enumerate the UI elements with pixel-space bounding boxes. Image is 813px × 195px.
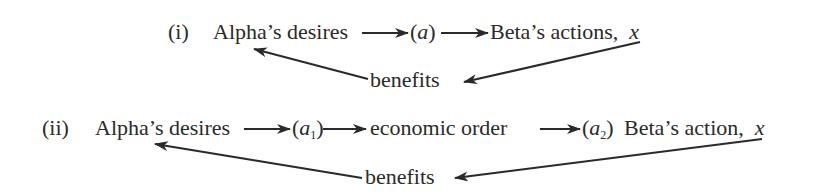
row2-source-alpha-desires: Alpha’s desires [95,116,230,140]
arrow-benefits-to-desires-2 [155,144,362,178]
causal-diagram: (i) Alpha’s desires (a) Beta’s actions, … [0,0,813,195]
arrow-benefits-to-desires [254,49,368,79]
arrow-x-to-benefits [464,42,640,82]
paren-close: ) [606,115,613,140]
var-x: x [755,115,765,140]
row1-source-alpha-desires: Alpha’s desires [213,20,348,44]
row2-feedback-benefits: benefits [365,165,435,189]
paren-close: ) [316,115,323,140]
row2-label: (ii) [42,116,69,140]
target-text: Beta’s actions, [490,19,618,44]
var-a: a [589,115,600,140]
row2-mediator-a1: (a1) [292,116,324,147]
row2-economic-order: economic order [370,116,507,140]
row1-feedback-benefits: benefits [370,68,440,92]
var-a: a [417,19,428,44]
target-text: Beta’s action, [624,115,744,140]
row1-label: (i) [168,20,189,44]
row2-mediator-a2: (a2) [582,116,614,147]
row2-target-beta-action: Beta’s action, x [624,116,765,140]
paren-close: ) [428,19,435,44]
var-x: x [629,19,639,44]
row1-target-beta-actions: Beta’s actions, x [490,20,639,44]
var-a: a [299,115,310,140]
row1-mediator-a: (a) [410,20,436,44]
